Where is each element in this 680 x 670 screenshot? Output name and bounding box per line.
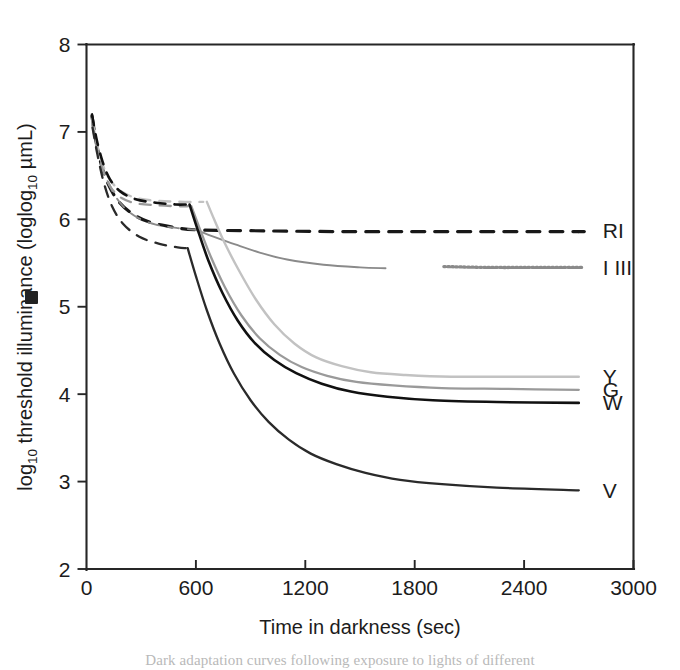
y-tick-label-6: 6 [59,208,71,231]
y-axis-ticks: 2345678 [59,33,87,581]
x-axis-title: Time in darkness (sec) [259,616,461,638]
x-tick-label-3000: 3000 [610,576,657,599]
curve-G [92,125,578,390]
dark-adaptation-chart: 2345678 06001200180024003000 RII IIIYGWV… [0,0,680,670]
y-tick-label-3: 3 [59,470,71,493]
y-tick-label-8: 8 [59,33,71,56]
x-axis-title-group: Time in darkness (sec) [259,616,461,638]
y-axis-title-sub-1: 10 [25,449,40,464]
curve-W [92,114,579,402]
y-axis-title: log10 threshold illuminance (loglog10 µm… [14,123,40,490]
curve-I-III-rod-segment [196,230,386,268]
ink-blot-artifact [25,291,38,304]
figure-caption: Dark adaptation curves following exposur… [0,652,680,669]
curve-I-III [93,123,583,268]
curve-labels: RII IIIYGWV [603,219,632,502]
x-tick-label-2400: 2400 [501,576,548,599]
y-axis-title-end: µmL) [14,123,36,175]
curve-label-I-III: I III [603,256,632,279]
curve-label-RI: RI [603,219,624,242]
y-axis-title-mid: threshold illuminance (log [14,217,36,449]
x-tick-label-1800: 1800 [391,576,438,599]
curve-RI [92,116,584,231]
y-tick-label-7: 7 [59,120,71,143]
curve-RI-cone-segment [92,116,579,231]
x-tick-label-0: 0 [81,576,93,599]
y-tick-label-4: 4 [59,383,71,406]
y-axis-title-log2: log [14,190,36,217]
y-axis-title-log: log [14,464,36,491]
y-axis-title-group: log10 threshold illuminance (loglog10 µm… [14,123,40,490]
curve-I-III-dotted-segment [444,267,583,268]
curve-Y [92,119,579,377]
x-tick-label-1200: 1200 [282,576,329,599]
curve-label-W: W [603,391,623,414]
curve-G-rod-segment [191,206,578,390]
x-axis-ticks: 06001200180024003000 [81,560,657,599]
y-tick-label-5: 5 [59,295,71,318]
curve-Y-cone-segment [92,119,203,202]
dark-adaptation-figure: 2345678 06001200180024003000 RII IIIYGWV… [0,0,680,670]
y-axis-title-sub-2: 10 [25,175,40,190]
chart-axes [87,44,635,570]
curve-V-cone-segment [93,128,186,249]
curve-V [93,128,579,491]
x-tick-label-600: 600 [178,576,213,599]
chart-curves [92,114,584,490]
curve-label-V: V [603,479,617,502]
y-tick-label-2: 2 [59,558,71,581]
